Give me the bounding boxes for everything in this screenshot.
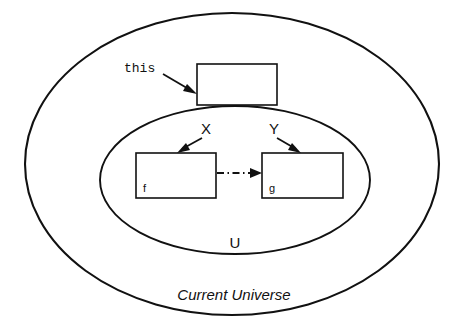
this-arrow-head	[183, 84, 197, 94]
this-box	[197, 64, 277, 105]
outer-universe-label: Current Universe	[177, 286, 290, 303]
x-label: X	[201, 120, 211, 137]
diagram-canvas: this X Y f g U Current Universe	[0, 0, 468, 330]
g-box-label: g	[269, 182, 275, 194]
f-box	[136, 153, 216, 198]
diagram-svg: this X Y f g U Current Universe	[0, 0, 468, 330]
y-label: Y	[269, 120, 279, 137]
inner-region-label: U	[230, 234, 241, 251]
x-arrow-head	[177, 143, 190, 153]
f-to-g-arrow-head	[250, 168, 262, 178]
outer-universe-ellipse	[25, 13, 439, 315]
this-label: this	[124, 61, 155, 76]
